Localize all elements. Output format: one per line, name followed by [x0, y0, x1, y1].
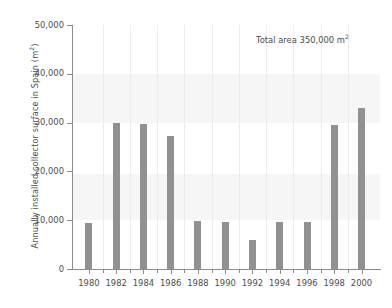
total-area-annotation-superscript: 2 [345, 33, 349, 40]
vertical-gridline [130, 25, 131, 269]
vertical-gridline [212, 25, 213, 269]
y-tick-mark [67, 220, 72, 221]
y-tick-label: 30,000 [35, 117, 64, 127]
x-tick-mark-minor [184, 270, 185, 273]
vertical-gridline [103, 25, 104, 269]
y-tick-mark [67, 171, 72, 172]
y-tick-mark [67, 74, 72, 75]
x-tick-mark-minor [293, 270, 294, 273]
total-area-annotation-text: Total area 350,000 m [256, 35, 345, 45]
bar-1998 [331, 125, 338, 269]
background-band [72, 74, 380, 123]
plot-area [72, 25, 380, 269]
bar-1996 [304, 222, 311, 269]
y-axis-title-tail: ) [30, 44, 40, 47]
bar-1994 [276, 222, 283, 269]
vertical-gridline [239, 25, 240, 269]
x-tick-mark [225, 270, 226, 274]
bar-1980 [85, 223, 92, 269]
bar-1990 [222, 222, 229, 269]
y-axis-title: Annually installed collector surface in … [22, 24, 42, 268]
y-axis-line [72, 25, 73, 270]
vertical-gridline [321, 25, 322, 269]
y-tick-mark [67, 123, 72, 124]
vertical-gridline [348, 25, 349, 269]
y-tick-label: 40,000 [35, 68, 64, 78]
x-tick-label: 2000 [342, 278, 382, 288]
x-tick-mark-minor [103, 270, 104, 273]
x-tick-mark [252, 270, 253, 274]
x-tick-mark [116, 270, 117, 274]
total-area-annotation: Total area 350,000 m2 [256, 33, 349, 45]
x-tick-mark-minor [212, 270, 213, 273]
bar-1992 [249, 240, 256, 269]
y-tick-label: 0 [59, 264, 64, 274]
bar-2000 [358, 108, 365, 269]
x-tick-mark-minor [348, 270, 349, 273]
x-tick-mark [198, 270, 199, 274]
y-tick-label: 50,000 [35, 20, 64, 30]
x-tick-mark [362, 270, 363, 274]
x-tick-mark-minor [130, 270, 131, 273]
vertical-gridline [293, 25, 294, 269]
x-tick-mark [143, 270, 144, 274]
bar-1982 [113, 123, 120, 269]
x-tick-mark [307, 270, 308, 274]
y-tick-label: 10,000 [35, 215, 64, 225]
x-tick-mark [280, 270, 281, 274]
vertical-gridline [266, 25, 267, 269]
x-tick-mark-minor [321, 270, 322, 273]
y-tick-mark [67, 269, 72, 270]
x-tick-mark-minor [239, 270, 240, 273]
x-tick-mark-minor [157, 270, 158, 273]
x-tick-mark [89, 270, 90, 274]
x-tick-mark [171, 270, 172, 274]
bar-1986 [167, 136, 174, 269]
bar-chart-figure: Annually installed collector surface in … [0, 0, 392, 308]
y-tick-label: 20,000 [35, 166, 64, 176]
x-tick-mark [334, 270, 335, 274]
x-tick-mark-minor [266, 270, 267, 273]
vertical-gridline [157, 25, 158, 269]
y-axis-title-superscript: 2 [28, 47, 35, 51]
y-tick-mark [67, 25, 72, 26]
bar-1984 [140, 124, 147, 269]
bar-1988 [194, 221, 201, 269]
vertical-gridline [184, 25, 185, 269]
